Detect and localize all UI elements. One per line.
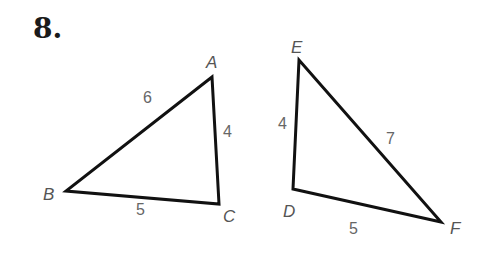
side-bc-label: 5 [136,201,145,218]
vertex-f-label: F [450,219,462,238]
vertex-d-label: D [283,202,295,221]
triangle-abc: A B C 6 4 5 [43,53,236,226]
triangle-diagram: A B C 6 4 5 E D F 4 7 5 [0,0,484,256]
side-ab-label: 6 [143,89,152,106]
side-ef-label: 7 [386,130,395,147]
triangle-def: E D F 4 7 5 [278,38,462,238]
side-df-label: 5 [349,220,358,237]
vertex-b-label: B [43,185,54,204]
side-ac-label: 4 [223,123,232,140]
vertex-a-label: A [205,53,217,72]
vertex-e-label: E [291,38,303,57]
side-de-label: 4 [278,115,287,132]
vertex-c-label: C [223,207,236,226]
